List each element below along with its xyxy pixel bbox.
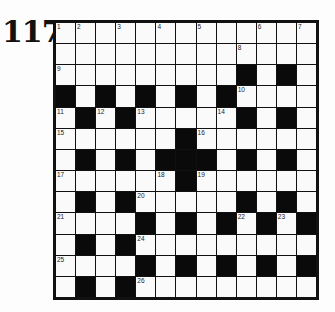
grid-cell[interactable] [96,171,115,191]
grid-cell[interactable] [277,44,296,64]
grid-cell[interactable]: 17 [56,171,75,191]
grid-cell[interactable] [277,171,296,191]
grid-cell[interactable] [217,23,236,43]
grid-cell[interactable] [197,213,216,233]
grid-cell[interactable] [76,129,95,149]
grid-cell[interactable] [96,256,115,276]
grid-cell[interactable] [56,277,75,297]
grid-cell[interactable] [297,86,316,106]
grid-cell[interactable] [197,277,216,297]
grid-cell[interactable] [297,44,316,64]
grid-cell[interactable] [96,23,115,43]
grid-cell[interactable] [156,108,175,128]
grid-cell[interactable] [297,108,316,128]
grid-cell[interactable] [277,86,296,106]
grid-cell[interactable] [237,235,256,255]
grid-cell[interactable] [277,277,296,297]
grid-cell[interactable] [197,44,216,64]
grid-cell[interactable]: 15 [56,129,75,149]
grid-cell[interactable] [297,171,316,191]
grid-cell[interactable] [217,192,236,212]
grid-cell[interactable] [96,213,115,233]
grid-cell[interactable] [217,65,236,85]
grid-cell[interactable] [176,44,195,64]
grid-cell[interactable] [156,277,175,297]
grid-cell[interactable] [76,171,95,191]
grid-cell[interactable] [257,65,276,85]
grid-cell[interactable] [257,150,276,170]
grid-cell[interactable] [56,235,75,255]
grid-cell[interactable] [116,256,135,276]
grid-cell[interactable] [156,44,175,64]
grid-cell[interactable]: 21 [56,213,75,233]
grid-cell[interactable] [96,192,115,212]
grid-cell[interactable]: 9 [56,65,75,85]
grid-cell[interactable] [297,65,316,85]
grid-cell[interactable]: 6 [257,23,276,43]
grid-cell[interactable] [237,23,256,43]
grid-cell[interactable]: 14 [217,108,236,128]
grid-cell[interactable] [56,150,75,170]
grid-cell[interactable] [96,44,115,64]
grid-cell[interactable] [156,235,175,255]
grid-cell[interactable] [197,108,216,128]
grid-cell[interactable]: 19 [197,171,216,191]
grid-cell[interactable] [297,129,316,149]
grid-cell[interactable] [116,44,135,64]
grid-cell[interactable] [176,277,195,297]
grid-cell[interactable] [197,192,216,212]
grid-cell[interactable]: 18 [156,171,175,191]
grid-cell[interactable] [257,171,276,191]
grid-cell[interactable] [257,86,276,106]
grid-cell[interactable]: 7 [297,23,316,43]
grid-cell[interactable] [76,86,95,106]
grid-cell[interactable] [136,65,155,85]
grid-cell[interactable] [156,192,175,212]
grid-cell[interactable] [237,277,256,297]
grid-cell[interactable] [136,150,155,170]
grid-cell[interactable] [217,44,236,64]
grid-cell[interactable] [257,277,276,297]
grid-cell[interactable]: 11 [56,108,75,128]
grid-cell[interactable] [176,108,195,128]
grid-cell[interactable]: 10 [237,86,256,106]
grid-cell[interactable]: 20 [136,192,155,212]
grid-cell[interactable] [156,213,175,233]
grid-cell[interactable] [237,256,256,276]
grid-cell[interactable]: 24 [136,235,155,255]
grid-cell[interactable] [116,213,135,233]
grid-cell[interactable] [257,192,276,212]
grid-cell[interactable] [237,129,256,149]
grid-cell[interactable]: 25 [56,256,75,276]
grid-cell[interactable] [76,213,95,233]
grid-cell[interactable] [217,235,236,255]
grid-cell[interactable] [56,192,75,212]
grid-cell[interactable]: 12 [96,108,115,128]
grid-cell[interactable] [197,235,216,255]
grid-cell[interactable]: 22 [237,213,256,233]
grid-cell[interactable]: 16 [197,129,216,149]
grid-cell[interactable]: 2 [76,23,95,43]
grid-cell[interactable] [197,65,216,85]
grid-cell[interactable] [217,171,236,191]
grid-cell[interactable] [217,277,236,297]
grid-cell[interactable] [96,65,115,85]
grid-cell[interactable] [176,23,195,43]
grid-cell[interactable] [176,235,195,255]
grid-cell[interactable]: 3 [116,23,135,43]
grid-cell[interactable] [76,44,95,64]
grid-cell[interactable] [257,108,276,128]
grid-cell[interactable] [76,65,95,85]
grid-cell[interactable]: 1 [56,23,75,43]
grid-cell[interactable]: 8 [237,44,256,64]
grid-cell[interactable] [156,129,175,149]
grid-cell[interactable] [96,235,115,255]
grid-cell[interactable] [96,277,115,297]
grid-cell[interactable] [96,129,115,149]
grid-cell[interactable] [136,171,155,191]
grid-cell[interactable]: 26 [136,277,155,297]
grid-cell[interactable] [297,277,316,297]
grid-cell[interactable] [116,86,135,106]
grid-cell[interactable] [136,23,155,43]
grid-cell[interactable] [237,171,256,191]
